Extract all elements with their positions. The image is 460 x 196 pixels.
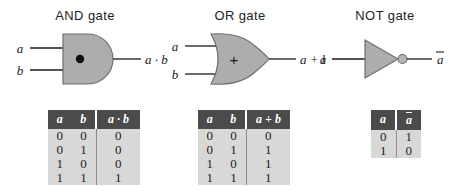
and-gate-block: AND gate a b a · b	[0, 0, 170, 100]
and-input-label-b: b	[17, 63, 24, 78]
or-cell-out: 1	[246, 143, 290, 157]
table-row: 0 0 0	[198, 129, 290, 143]
or-table-header-row: a b a + b	[198, 110, 290, 129]
not-gate-diagram: a a	[310, 30, 460, 92]
or-cell-a: 0	[198, 129, 222, 143]
not-truth-table: a a 0 1 1 0	[371, 110, 421, 158]
and-table-header-row: a b a · b	[48, 110, 140, 129]
and-cell-a: 0	[48, 143, 72, 157]
and-cell-a: 0	[48, 129, 72, 143]
or-cell-b: 0	[222, 129, 247, 143]
or-cell-b: 1	[222, 171, 247, 185]
not-gate-title: NOT gate	[310, 8, 460, 23]
or-header-b: b	[222, 110, 247, 129]
not-gate-block: NOT gate a a	[310, 0, 460, 100]
table-row: 0 1 0	[48, 143, 140, 157]
and-cell-b: 0	[72, 129, 97, 143]
and-operator-dot-icon	[76, 55, 84, 63]
and-gate-body	[63, 34, 113, 84]
or-cell-out: 0	[246, 129, 290, 143]
not-input-label-a: a	[320, 52, 327, 67]
or-cell-b: 0	[222, 157, 247, 171]
and-cell-out: 1	[96, 171, 140, 185]
table-row: 1 0 1	[198, 157, 290, 171]
or-input-label-b: b	[172, 67, 179, 82]
not-cell-out: 0	[396, 144, 421, 158]
and-truth-table: a b a · b 0 0 0 0 1 0 1 0 0 1 1 1	[48, 110, 140, 185]
or-cell-a: 1	[198, 157, 222, 171]
not-output-label: a	[437, 52, 444, 67]
or-gate-block: OR gate + a b a + b	[155, 0, 325, 100]
not-header-out: a	[396, 110, 421, 130]
or-gate-title: OR gate	[155, 8, 325, 23]
or-cell-a: 1	[198, 171, 222, 185]
or-header-out: a + b	[246, 110, 290, 129]
table-row: 1 1 1	[48, 171, 140, 185]
or-header-a: a	[198, 110, 222, 129]
not-inversion-bubble-icon	[398, 55, 407, 64]
or-cell-out: 1	[246, 171, 290, 185]
or-cell-out: 1	[246, 157, 290, 171]
table-row: 1 1 1	[198, 171, 290, 185]
and-header-out: a · b	[96, 110, 140, 129]
table-row: 0 0 0	[48, 129, 140, 143]
or-cell-b: 1	[222, 143, 247, 157]
and-cell-a: 1	[48, 171, 72, 185]
and-cell-b: 1	[72, 171, 97, 185]
not-cell-a: 1	[371, 144, 396, 158]
or-cell-a: 0	[198, 143, 222, 157]
and-cell-out: 0	[96, 157, 140, 171]
and-header-b: b	[72, 110, 97, 129]
and-cell-a: 1	[48, 157, 72, 171]
not-header-a: a	[371, 110, 396, 130]
not-cell-a: 0	[371, 130, 396, 144]
table-row: 0 1	[371, 130, 421, 144]
or-input-label-a: a	[172, 39, 179, 54]
not-table-header-row: a a	[371, 110, 421, 130]
not-gate-body	[365, 40, 398, 78]
and-gate-diagram: a b a · b	[0, 30, 170, 92]
or-operator-plus-icon: +	[230, 51, 239, 68]
or-gate-diagram: + a b a + b	[155, 30, 325, 92]
and-cell-b: 1	[72, 143, 97, 157]
table-row: 1 0	[371, 144, 421, 158]
and-gate-title: AND gate	[0, 8, 170, 23]
and-input-label-a: a	[17, 41, 24, 56]
or-gate-body	[211, 34, 269, 85]
and-cell-out: 0	[96, 143, 140, 157]
and-header-a: a	[48, 110, 72, 129]
or-truth-table: a b a + b 0 0 0 0 1 1 1 0 1 1 1 1	[198, 110, 290, 185]
and-cell-out: 0	[96, 129, 140, 143]
table-row: 1 0 0	[48, 157, 140, 171]
not-cell-out: 1	[396, 130, 421, 144]
table-row: 0 1 1	[198, 143, 290, 157]
and-cell-b: 0	[72, 157, 97, 171]
